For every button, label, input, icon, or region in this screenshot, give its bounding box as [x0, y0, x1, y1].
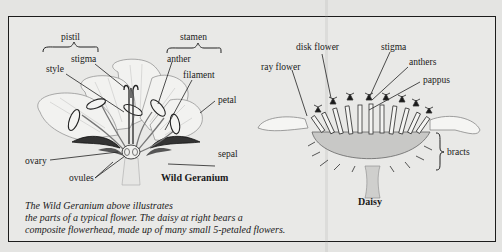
caption-line-1: The Wild Geranium above illustrates — [25, 200, 285, 212]
bracts-bracket — [436, 133, 444, 170]
caption-line-3: composite flowerhead, made up of many sm… — [25, 224, 285, 236]
label-pappus: pappus — [423, 75, 450, 85]
label-pistil: pistil — [61, 32, 80, 42]
daisy-ray-flower-right — [430, 116, 480, 133]
label-ovary: ovary — [25, 156, 47, 166]
label-bracts: bracts — [447, 147, 470, 157]
label-stamen: stamen — [180, 32, 207, 42]
label-sepal: sepal — [218, 149, 238, 159]
daisy-receptacle — [312, 132, 430, 159]
caption-line-2: the parts of a typical flower. The daisy… — [25, 212, 285, 224]
geranium-illustration — [38, 42, 221, 185]
caption: The Wild Geranium above illustrates the … — [25, 200, 285, 236]
label-disk-flower: disk flower — [296, 42, 339, 52]
label-ovules: ovules — [69, 173, 94, 183]
geranium-stem — [122, 158, 140, 185]
label-filament: filament — [183, 70, 215, 80]
geranium-title: Wild Geranium — [161, 172, 228, 183]
label-daisy-stigma: stigma — [381, 42, 406, 52]
label-petal: petal — [218, 95, 236, 105]
daisy-stem — [365, 166, 380, 198]
label-anthers: anthers — [409, 57, 436, 67]
pistil-bracket — [43, 42, 98, 52]
stamen-bracket — [167, 43, 221, 53]
label-style: style — [46, 64, 64, 74]
label-stigma: stigma — [71, 54, 96, 64]
daisy-disk-flowers — [311, 93, 433, 134]
label-ray-flower: ray flower — [261, 62, 300, 72]
label-anther: anther — [167, 54, 191, 64]
daisy-ray-flower-left — [258, 117, 308, 131]
daisy-illustration — [258, 52, 480, 198]
daisy-title: Daisy — [358, 196, 382, 207]
